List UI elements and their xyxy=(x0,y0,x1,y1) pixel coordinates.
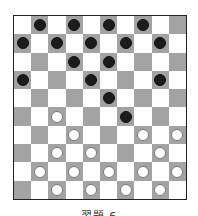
board-square-r9-c3 xyxy=(66,181,83,199)
board-square-r3-c6 xyxy=(117,71,134,89)
board-square-r3-c2 xyxy=(48,71,65,89)
board-square-r7-c7 xyxy=(134,144,151,162)
board-square-r3-c3 xyxy=(66,71,83,89)
board-square-r6-c8 xyxy=(152,126,169,144)
board-square-r8-c5 xyxy=(100,162,117,180)
board-square-r9-c4 xyxy=(83,181,100,199)
board-square-r5-c7 xyxy=(134,107,151,125)
board-square-r2-c7 xyxy=(134,53,151,71)
board-square-r6-c6 xyxy=(117,126,134,144)
board-square-r1-c4 xyxy=(83,34,100,52)
board-square-r7-c1 xyxy=(31,144,48,162)
white-piece-icon xyxy=(171,129,183,141)
board-square-r4-c0 xyxy=(14,89,31,107)
board-square-r0-c5 xyxy=(100,16,117,34)
white-piece-icon xyxy=(51,184,63,196)
board-square-r0-c4 xyxy=(83,16,100,34)
black-piece-icon xyxy=(103,56,115,68)
white-piece-icon xyxy=(171,166,183,178)
diagram-caption: 習題 6 xyxy=(0,207,198,216)
white-piece-icon xyxy=(51,147,63,159)
black-piece-icon xyxy=(34,19,46,31)
white-piece-icon xyxy=(34,166,46,178)
board-square-r9-c6 xyxy=(117,181,134,199)
board-square-r5-c0 xyxy=(14,107,31,125)
board-square-r4-c4 xyxy=(83,89,100,107)
board-square-r8-c1 xyxy=(31,162,48,180)
black-piece-icon xyxy=(120,111,132,123)
board-square-r3-c9 xyxy=(169,71,186,89)
board-square-r6-c2 xyxy=(48,126,65,144)
board-square-r3-c4 xyxy=(83,71,100,89)
white-piece-icon xyxy=(120,184,132,196)
black-piece-icon xyxy=(120,37,132,49)
board-square-r6-c0 xyxy=(14,126,31,144)
board-square-r6-c1 xyxy=(31,126,48,144)
board-square-r6-c3 xyxy=(66,126,83,144)
board-square-r3-c5 xyxy=(100,71,117,89)
board-square-r0-c7 xyxy=(134,16,151,34)
board-square-r2-c9 xyxy=(169,53,186,71)
draughts-board xyxy=(13,15,187,200)
board-square-r2-c6 xyxy=(117,53,134,71)
board-square-r0-c3 xyxy=(66,16,83,34)
board-square-r5-c5 xyxy=(100,107,117,125)
board-square-r5-c3 xyxy=(66,107,83,125)
board-square-r0-c6 xyxy=(117,16,134,34)
board-square-r2-c1 xyxy=(31,53,48,71)
board-square-r7-c4 xyxy=(83,144,100,162)
board-square-r2-c5 xyxy=(100,53,117,71)
black-piece-icon xyxy=(68,19,80,31)
white-piece-icon xyxy=(103,166,115,178)
board-square-r1-c7 xyxy=(134,34,151,52)
board-square-r5-c8 xyxy=(152,107,169,125)
black-piece-icon xyxy=(103,19,115,31)
board-square-r3-c1 xyxy=(31,71,48,89)
board-square-r5-c1 xyxy=(31,107,48,125)
board-square-r6-c4 xyxy=(83,126,100,144)
board-square-r2-c8 xyxy=(152,53,169,71)
board-square-r7-c5 xyxy=(100,144,117,162)
white-piece-icon xyxy=(154,147,166,159)
board-square-r8-c4 xyxy=(83,162,100,180)
board-square-r0-c1 xyxy=(31,16,48,34)
board-square-r7-c2 xyxy=(48,144,65,162)
board-square-r0-c0 xyxy=(14,16,31,34)
black-piece-icon xyxy=(68,56,80,68)
white-piece-icon xyxy=(137,129,149,141)
board-square-r7-c6 xyxy=(117,144,134,162)
board-square-r9-c7 xyxy=(134,181,151,199)
board-square-r4-c5 xyxy=(100,89,117,107)
board-square-r1-c1 xyxy=(31,34,48,52)
board-square-r4-c2 xyxy=(48,89,65,107)
board-square-r9-c5 xyxy=(100,181,117,199)
board-square-r1-c9 xyxy=(169,34,186,52)
black-piece-icon xyxy=(103,92,115,104)
black-piece-icon xyxy=(85,37,97,49)
board-square-r0-c2 xyxy=(48,16,65,34)
board-square-r4-c8 xyxy=(152,89,169,107)
black-piece-icon xyxy=(137,19,149,31)
board-square-r9-c0 xyxy=(14,181,31,199)
board-square-r2-c3 xyxy=(66,53,83,71)
board-square-r8-c3 xyxy=(66,162,83,180)
white-piece-icon xyxy=(154,184,166,196)
board-square-r1-c0 xyxy=(14,34,31,52)
board-square-r7-c8 xyxy=(152,144,169,162)
board-square-r8-c8 xyxy=(152,162,169,180)
board-square-r0-c8 xyxy=(152,16,169,34)
board-square-r7-c0 xyxy=(14,144,31,162)
board-square-r6-c9 xyxy=(169,126,186,144)
board-square-r8-c9 xyxy=(169,162,186,180)
white-piece-icon xyxy=(68,166,80,178)
white-piece-icon xyxy=(137,166,149,178)
board-square-r9-c1 xyxy=(31,181,48,199)
black-piece-icon xyxy=(85,74,97,86)
board-square-r8-c7 xyxy=(134,162,151,180)
board-square-r1-c5 xyxy=(100,34,117,52)
board-square-r6-c5 xyxy=(100,126,117,144)
board-square-r2-c0 xyxy=(14,53,31,71)
board-square-r7-c3 xyxy=(66,144,83,162)
board-square-r9-c2 xyxy=(48,181,65,199)
board-square-r1-c8 xyxy=(152,34,169,52)
